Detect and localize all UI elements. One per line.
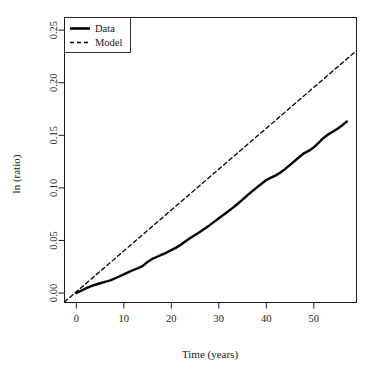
chart-figure: 01020304050 0.000.050.100.150.200.25 Tim… xyxy=(0,0,376,379)
line-chart: 01020304050 0.000.050.100.150.200.25 Tim… xyxy=(0,0,376,379)
x-tick-label: 30 xyxy=(214,313,225,324)
series-group xyxy=(65,51,357,302)
y-tick-label: 0.20 xyxy=(48,74,59,92)
y-tick-label: 0.15 xyxy=(48,126,59,144)
plot-frame xyxy=(65,18,357,303)
y-tick-label: 0.05 xyxy=(48,231,59,249)
chart-legend: Data Model xyxy=(65,18,131,53)
series-line-data xyxy=(76,121,347,293)
x-tick-label: 50 xyxy=(309,313,320,324)
y-tick-label: 0.00 xyxy=(48,284,59,302)
y-axis-title: ln (ratio) xyxy=(10,154,23,193)
series-line-model xyxy=(65,51,357,302)
x-axis-title: Time (years) xyxy=(182,348,238,361)
x-tick-label: 0 xyxy=(74,313,79,324)
y-tick-label: 0.25 xyxy=(48,21,59,39)
y-axis-ticks: 0.000.050.100.150.200.25 xyxy=(48,21,65,302)
legend-label-data: Data xyxy=(95,23,115,34)
x-tick-label: 40 xyxy=(261,313,272,324)
x-axis-ticks: 01020304050 xyxy=(74,303,319,324)
x-tick-label: 20 xyxy=(166,313,177,324)
legend-label-model: Model xyxy=(95,37,122,48)
x-tick-label: 10 xyxy=(119,313,130,324)
y-tick-label: 0.10 xyxy=(48,179,59,197)
